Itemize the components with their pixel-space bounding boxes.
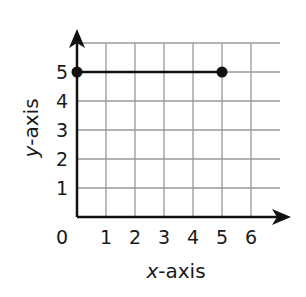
x-tick-label: 1: [100, 226, 112, 248]
endpoint-dot: [217, 67, 228, 78]
y-tick-label: 2: [56, 148, 68, 170]
x-tick-label: 0: [56, 226, 68, 248]
endpoint-dot: [72, 67, 83, 78]
data-series: [72, 67, 228, 78]
x-tick-label: 6: [245, 226, 257, 248]
y-tick-label: 5: [56, 61, 68, 83]
x-axis-label: x-axis: [145, 259, 205, 283]
x-tick-labels: 0123456: [56, 226, 257, 248]
y-axis-label: y-axis: [19, 98, 43, 158]
axes: [69, 29, 291, 225]
x-tick-label: 2: [129, 226, 141, 248]
x-tick-label: 4: [187, 226, 199, 248]
chart: 0123456 12345 x-axis y-axis: [0, 0, 306, 297]
y-tick-labels: 12345: [56, 61, 68, 199]
y-tick-label: 3: [56, 119, 68, 141]
x-tick-label: 3: [158, 226, 170, 248]
grid-lines: [77, 43, 280, 217]
y-tick-label: 4: [56, 90, 68, 112]
x-tick-label: 5: [216, 226, 228, 248]
y-tick-label: 1: [56, 177, 68, 199]
